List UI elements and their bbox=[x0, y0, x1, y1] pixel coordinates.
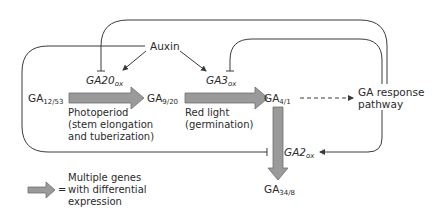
ga3ox-base: GA3 bbox=[206, 74, 228, 86]
ga9-20-sub: 9/20 bbox=[162, 98, 178, 106]
ga4-1-base: GA bbox=[264, 92, 279, 104]
ga12-53-base: GA bbox=[28, 92, 43, 104]
outer-response-loop bbox=[101, 20, 387, 84]
legend-equals-sign: = bbox=[58, 184, 66, 196]
legend-line2: with differential bbox=[68, 184, 147, 196]
ga20ox-sub: ox bbox=[115, 80, 123, 88]
ga2ox-sub: ox bbox=[306, 152, 314, 160]
ga4-1-node: GA4/1 bbox=[264, 92, 291, 108]
ga12-to-ga9-block-arrow bbox=[69, 87, 144, 109]
ga34-8-base: GA bbox=[264, 183, 279, 195]
ga34-8-node: GA34/8 bbox=[264, 183, 295, 199]
inner-response-loop bbox=[230, 39, 382, 84]
red-light-annotation-line1: Red light bbox=[185, 107, 229, 119]
ga9-20-base: GA bbox=[147, 92, 162, 104]
legend-line3: expression bbox=[68, 196, 122, 208]
auxin-label: Auxin bbox=[150, 40, 180, 52]
ga-response-line1: GA response bbox=[358, 86, 424, 98]
legend-line1: Multiple genes bbox=[68, 172, 141, 184]
photoperiod-annotation-line2: (stem elongation bbox=[68, 119, 153, 131]
red-light-annotation-line2: (germination) bbox=[185, 119, 253, 131]
auxin-to-ga3ox-arrow bbox=[180, 51, 206, 71]
ga9-to-ga4-block-arrow bbox=[185, 87, 268, 109]
auxin-to-ga20ox-arrow bbox=[123, 51, 146, 70]
ga4-to-ga34-block-arrow bbox=[268, 107, 288, 180]
ga2ox-gene-label: GA2ox bbox=[284, 146, 314, 162]
photoperiod-annotation-line3: and tuberization) bbox=[68, 131, 154, 143]
ga-response-line2: pathway bbox=[358, 98, 403, 110]
ga2ox-base: GA2 bbox=[284, 146, 306, 158]
legend-block-arrow bbox=[28, 182, 55, 198]
ga3ox-gene-label: GA3ox bbox=[206, 74, 236, 90]
ga12-53-node: GA12/53 bbox=[28, 92, 64, 108]
ga20ox-gene-label: GA20ox bbox=[86, 74, 123, 90]
feedback-to-ga20ox-line bbox=[186, 83, 187, 84]
response-to-ga2ox-arrow bbox=[320, 110, 382, 152]
gibberellin-pathway-diagram: Auxin GA20ox GA3ox GA12/53 GA9/20 GA4/1 … bbox=[0, 0, 438, 218]
ga12-53-sub: 12/53 bbox=[43, 98, 63, 106]
ga9-20-node: GA9/20 bbox=[147, 92, 178, 108]
ga3ox-sub: ox bbox=[228, 80, 236, 88]
ga4-1-sub: 4/1 bbox=[279, 98, 290, 106]
ga34-8-sub: 34/8 bbox=[279, 189, 295, 197]
photoperiod-annotation-line1: Photoperiod bbox=[68, 107, 128, 119]
ga20ox-base: GA20 bbox=[86, 74, 115, 86]
